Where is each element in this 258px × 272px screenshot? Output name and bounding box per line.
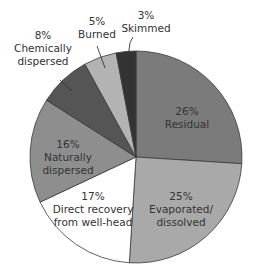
name: Chemically [14,42,72,55]
pct: 26% [165,105,209,118]
name2: dispersed [42,164,93,177]
pct: 3% [121,9,170,22]
label-evaporated: 25% Evaporated/ dissolved [149,190,213,229]
pct: 25% [149,190,213,203]
name: Direct recovery [53,203,134,216]
pct: 16% [42,138,93,151]
label-burned: 5% Burned [78,15,116,41]
label-naturally-dispersed: 16% Naturally dispersed [42,138,93,177]
label-chemically-dispersed: 8% Chemically dispersed [14,29,72,68]
name: Residual [165,118,209,131]
name2: from well-head [53,216,134,229]
name: Naturally [42,151,93,164]
label-skimmed: 3% Skimmed [121,9,170,35]
pct: 17% [53,190,134,203]
pct: 5% [78,15,116,28]
name2: dispersed [14,55,72,68]
pct: 8% [14,29,72,42]
name: Burned [78,28,116,41]
label-direct-recovery: 17% Direct recovery from well-head [53,190,134,229]
name: Evaporated/ [149,203,213,216]
name: Skimmed [121,22,170,35]
label-residual: 26% Residual [165,105,209,131]
name2: dissolved [149,216,213,229]
